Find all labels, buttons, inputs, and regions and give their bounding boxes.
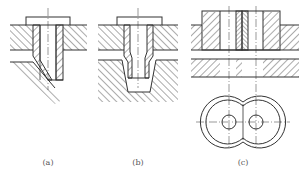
panel-a [10,8,87,104]
panel-label-a: (a) [42,158,53,167]
sleeve-wall-right [145,25,153,78]
panel-b [98,8,178,102]
slanted-workpiece [10,62,62,104]
sleeve-flange [117,17,162,25]
sleeve-wall-mid-right [242,11,248,50]
panel-label-c: (c) [238,158,249,167]
plate-hatch-right [63,25,87,50]
panel-label-b: (b) [132,158,143,167]
sleeve-wall-right [56,25,63,80]
sleeve-wall-mid-left [236,11,242,50]
sleeve-wall-left [124,25,132,78]
panel-c [191,6,299,148]
figure-canvas [0,0,299,179]
plate-hatch-left [10,25,33,50]
